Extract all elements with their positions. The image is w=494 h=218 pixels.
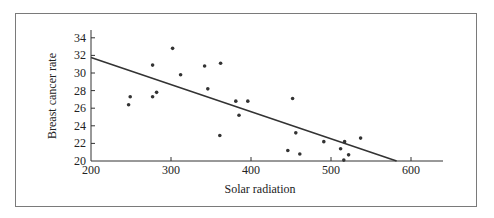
y-tick-label: 28 — [74, 84, 86, 98]
y-axis-label: Breast cancer rate — [45, 53, 59, 139]
data-point — [234, 99, 238, 103]
data-point — [171, 47, 175, 51]
data-point — [151, 95, 155, 99]
y-tick-label: 22 — [74, 136, 86, 150]
data-point — [155, 91, 159, 95]
regression-line-layer — [91, 58, 397, 161]
data-point — [203, 64, 207, 68]
data-point — [294, 131, 298, 135]
data-point — [343, 140, 347, 144]
data-point — [298, 152, 302, 156]
data-point — [127, 103, 131, 107]
data-point — [219, 62, 223, 66]
data-point — [128, 95, 132, 99]
data-point — [322, 140, 326, 144]
y-tick-label: 30 — [74, 66, 86, 80]
data-point — [359, 136, 363, 140]
y-tick-label: 24 — [74, 119, 86, 133]
y-tick-label: 34 — [74, 31, 86, 45]
x-axis-label: Solar radiation — [225, 182, 296, 196]
x-tick-label: 300 — [162, 163, 180, 177]
data-point — [206, 87, 210, 91]
x-tick-label: 600 — [402, 163, 420, 177]
y-tick-label: 26 — [74, 101, 86, 115]
x-tick-label: 500 — [322, 163, 340, 177]
scatter-chart: 2003004005006002022242628303234 Solar ra… — [0, 0, 494, 218]
y-tick-label: 20 — [74, 154, 86, 168]
data-point — [237, 113, 241, 117]
data-point — [347, 153, 351, 157]
points-layer — [127, 47, 363, 162]
x-tick-label: 400 — [242, 163, 260, 177]
y-tick-label: 32 — [74, 48, 86, 62]
data-point — [342, 158, 346, 162]
data-point — [151, 63, 155, 67]
data-point — [179, 73, 183, 77]
regression-line — [91, 58, 397, 161]
data-point — [291, 97, 295, 101]
data-point — [246, 99, 250, 103]
data-point — [218, 134, 222, 138]
data-point — [339, 147, 343, 151]
data-point — [286, 149, 290, 153]
